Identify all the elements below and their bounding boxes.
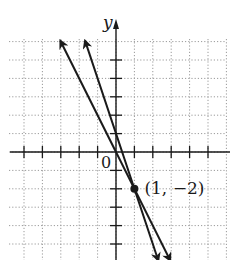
y-axis-arrow-icon: [113, 19, 119, 29]
line-b: [85, 41, 158, 260]
coordinate-graph: (1, −2) y 0: [0, 0, 234, 260]
annotations: (1, −2): [130, 178, 204, 198]
axes: [10, 19, 230, 260]
point-label: (1, −2): [144, 178, 204, 198]
intersection-point: [130, 185, 138, 193]
grid: [9, 39, 226, 260]
y-axis-label: y: [102, 12, 113, 32]
origin-label: 0: [101, 153, 111, 172]
